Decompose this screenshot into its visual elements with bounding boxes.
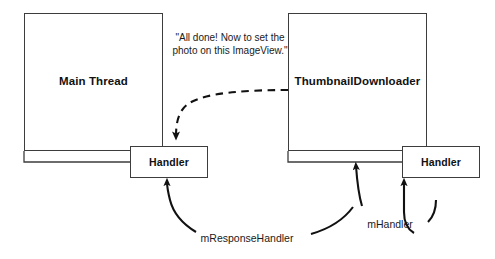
- diagram-canvas: Main Thread ThumbnailDownloader Handler …: [0, 0, 495, 259]
- main-thread-label: Main Thread: [59, 75, 128, 88]
- thumbnail-downloader-label: ThumbnailDownloader: [295, 75, 421, 88]
- connector-downloader-bottom-arrow: [356, 166, 362, 206]
- connector-response-handler-right: [311, 207, 353, 234]
- handler-edge-label: mHandler: [355, 218, 425, 232]
- handler-downloader-node: Handler: [402, 146, 480, 178]
- handler-main-thread-label: Handler: [149, 156, 189, 168]
- connector-main-thread-to-handler: [24, 151, 130, 162]
- connector-downloader-to-handler: [288, 151, 402, 162]
- handler-downloader-label: Handler: [421, 156, 461, 168]
- connector-message-dashed-arrow: [176, 90, 288, 136]
- response-handler-edge-label: mResponseHandler: [183, 232, 311, 246]
- connector-response-handler-left: [167, 182, 196, 232]
- main-thread-node: Main Thread: [24, 13, 163, 151]
- message-callout-text: "All done! Now to set the photo on this …: [171, 31, 289, 57]
- thumbnail-downloader-node: ThumbnailDownloader: [288, 13, 427, 151]
- connector-handler-leader: [428, 200, 436, 222]
- handler-main-thread-node: Handler: [130, 146, 208, 178]
